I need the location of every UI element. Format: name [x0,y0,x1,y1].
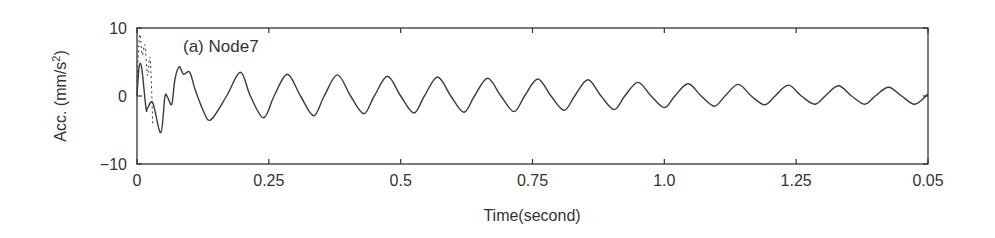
x-tick-label: 0.5 [390,172,412,189]
y-axis-title: Acc. (mm/s2) [50,50,69,141]
x-tick-label: 0 [133,172,142,189]
x-tick-label: 1.25 [781,172,812,189]
series-solid-line [137,63,928,133]
y-axis-title-close: ) [52,50,69,55]
x-axis-title: Time(second) [483,207,580,224]
y-axis-title-base: Acc. (mm/s [52,62,69,142]
x-tick-label: 0.75 [517,172,548,189]
y-tick-label: −10 [100,156,127,173]
panel-annotation: (a) Node7 [183,37,259,56]
x-tick-label: 0.05 [912,172,943,189]
x-tick-label: 0.25 [253,172,284,189]
chart: 00.250.50.751.01.250.05 100−10 (a) Node7… [0,0,995,238]
y-tick-label: 10 [109,20,127,37]
x-tick-label: 1.0 [653,172,675,189]
series-dashed-line [137,34,153,126]
y-tick-label: 0 [118,88,127,105]
